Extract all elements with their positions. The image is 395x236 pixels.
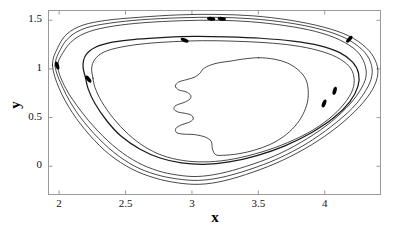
marker-blob [332,86,338,95]
marker-right-mid [332,86,338,95]
y-tick-label-1: 1 [12,61,42,73]
x-tick-label-2.5: 2.5 [106,197,146,209]
figure-container: 22.533.54 00.511.5 y x [0,0,395,236]
tick-marks [49,11,381,195]
y-tick-label-0: 0 [12,158,42,170]
marker-blob [180,37,189,44]
axes-frame [49,11,381,195]
y-axis-label: y [0,92,32,118]
trajectory-mid-orbit-thick [83,36,359,164]
trajectory-inner-face-orbit [174,58,308,156]
x-axis-label: x [195,206,235,228]
y-tick-label-1.5: 1.5 [12,12,42,24]
plot-frame [49,11,381,195]
trajectory-outer-orbit-1 [52,14,377,184]
marker-right-lower [321,99,328,108]
marker-top-left-inner [180,37,189,44]
x-tick-label-2: 2 [39,197,79,209]
trajectory-curves [52,14,377,184]
x-tick-label-3.5: 3.5 [238,197,278,209]
x-tick-label-4: 4 [305,197,345,209]
trajectory-outer-orbit-2 [55,17,372,180]
marker-blob [321,99,328,108]
